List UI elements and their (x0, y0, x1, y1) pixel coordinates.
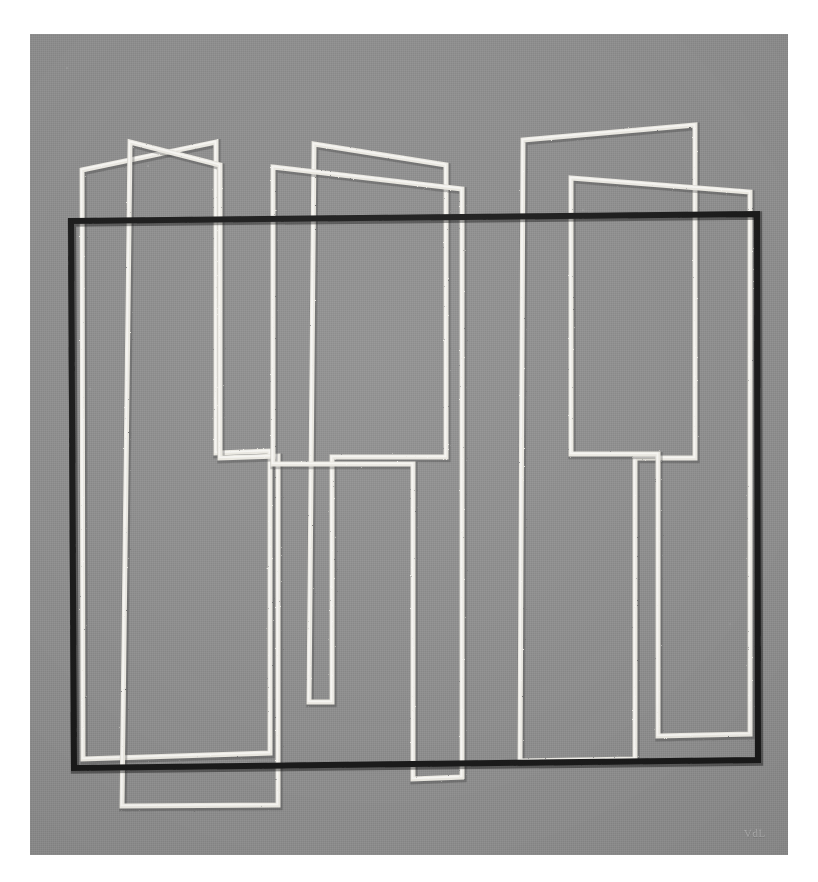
white-shape-b (122, 142, 278, 806)
painted-lines-layer (30, 34, 788, 855)
painting-canvas: VdL (30, 34, 788, 855)
white-shape-b-highlight (122, 141, 278, 805)
white-shape-e-shadow (521, 127, 696, 763)
white-outline-group (82, 124, 752, 807)
white-shape-c-highlight (309, 143, 446, 701)
white-shape-b-shadow (123, 144, 279, 808)
white-shape-c (309, 144, 446, 702)
white-shape-d-highlight (273, 166, 462, 778)
white-shape-d-shadow (274, 169, 463, 781)
artwork-viewer: VdL (0, 0, 818, 882)
white-shape-a (82, 142, 270, 759)
white-shape-d (273, 167, 462, 779)
white-shape-f-shadow (572, 180, 751, 738)
